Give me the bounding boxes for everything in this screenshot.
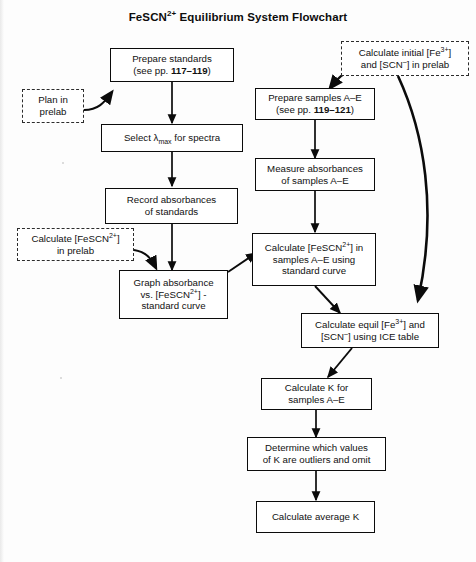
- node-calculate-fescn-prelab-line2: in prelab: [21, 245, 130, 257]
- node-calculate-fescn-samples-line1: Calculate [FeSCN2+] in: [256, 242, 372, 254]
- node-measure-absorbances[interactable]: Measure absorbances of samples A–E: [255, 158, 375, 191]
- node-graph-absorbance-line1: Graph absorbance: [123, 277, 224, 289]
- equil-fe-suffix: ] and: [403, 319, 425, 330]
- node-calculate-initial-prelab-line2: and [SCN–] in prelab: [345, 59, 465, 71]
- edge-equil-to-calculate-k: [328, 348, 352, 377]
- page-title-superscript: 2+: [167, 9, 176, 18]
- initial-fe-prefix: Calculate initial [Fe: [359, 47, 441, 58]
- see-pages-prefix: (see pp.: [276, 104, 314, 115]
- node-calculate-average-k[interactable]: Calculate average K: [256, 501, 375, 533]
- edge-initial-to-calculate-equil: [398, 76, 427, 300]
- graph-fescn-suffix: ] -: [198, 289, 207, 300]
- node-determine-outliers[interactable]: Determine which values of K are outliers…: [247, 437, 386, 471]
- node-graph-absorbance-line3: standard curve: [123, 300, 224, 312]
- node-calculate-equil-line1: Calculate equil [Fe3+] and: [305, 319, 435, 331]
- fescn-suffix: ]: [117, 233, 120, 244]
- see-pages-suffix: ): [351, 104, 354, 115]
- page-title-post: Equilibrium System Flowchart: [176, 11, 347, 23]
- equil-scn-prefix: [SCN: [321, 331, 344, 342]
- edge-fescn-samples-to-equil: [315, 286, 340, 313]
- node-graph-absorbance-line2: vs. [FeSCN2+] -: [123, 289, 224, 301]
- node-plan-in-prelab-line2: prelab: [26, 106, 80, 118]
- initial-scn-prefix: and [SCN: [361, 59, 403, 70]
- scan-speck: [60, 377, 62, 379]
- node-graph-absorbance[interactable]: Graph absorbance vs. [FeSCN2+] - standar…: [119, 270, 228, 319]
- edge-fescn-prelab-to-graph: [134, 250, 156, 268]
- node-calculate-fescn-samples-line2: samples A–E using: [256, 254, 372, 266]
- node-prepare-samples[interactable]: Prepare samples A–E (see pp. 119–121): [255, 88, 375, 120]
- node-prepare-samples-line2: (see pp. 119–121): [259, 104, 371, 116]
- connector-layer: [0, 0, 476, 562]
- node-determine-outliers-line1: Determine which values: [251, 442, 382, 454]
- node-calculate-k-line2: samples A–E: [265, 394, 368, 406]
- node-measure-absorbances-line1: Measure absorbances: [259, 163, 371, 175]
- node-calculate-average-k-line1: Calculate average K: [260, 511, 371, 523]
- fescn-prefix: Calculate [FeSCN: [31, 233, 109, 244]
- fe-charge-superscript: 3+: [441, 46, 449, 53]
- initial-scn-suffix: ] in prelab: [407, 59, 450, 70]
- equil-fe-prefix: Calculate equil [Fe: [315, 319, 395, 330]
- equil-scn-suffix: ] using ICE table: [348, 331, 419, 342]
- node-record-absorbances-line1: Record absorbances: [109, 194, 234, 206]
- fescn-charge-superscript: 2+: [109, 232, 117, 239]
- node-plan-in-prelab-line1: Plan in: [26, 94, 80, 106]
- node-record-absorbances-line2: of standards: [109, 206, 234, 218]
- node-prepare-standards-line1: Prepare standards: [114, 53, 230, 65]
- node-select-lambda-max[interactable]: Select λmax for spectra: [101, 124, 243, 152]
- node-calculate-fescn-prelab-line1: Calculate [FeSCN2+]: [21, 233, 130, 245]
- lambda-suffix: for spectra: [172, 132, 220, 143]
- samples-fescn-prefix: Calculate [FeSCN: [265, 242, 343, 253]
- flowchart-page: FeSCN2+ Equilibrium System Flowchart: [0, 0, 476, 562]
- node-select-lambda-max-line1: Select λmax for spectra: [105, 132, 239, 144]
- node-prepare-standards[interactable]: Prepare standards (see pp. 117–119): [110, 48, 234, 82]
- see-pages-suffix: ): [208, 65, 211, 76]
- node-calculate-equil-line2: [SCN–] using ICE table: [305, 331, 435, 343]
- samples-fescn-suffix: ] in: [350, 242, 363, 253]
- initial-fe-suffix: ]: [449, 47, 452, 58]
- node-calculate-initial-prelab[interactable]: Calculate initial [Fe3+] and [SCN–] in p…: [341, 41, 469, 76]
- node-calculate-k-line1: Calculate K for: [265, 382, 368, 394]
- lambda-subscript: max: [158, 138, 171, 145]
- node-prepare-samples-line1: Prepare samples A–E: [259, 92, 371, 104]
- node-calculate-fescn-prelab[interactable]: Calculate [FeSCN2+] in prelab: [17, 228, 134, 261]
- node-plan-in-prelab[interactable]: Plan in prelab: [22, 89, 84, 123]
- node-calculate-equil[interactable]: Calculate equil [Fe3+] and [SCN–] using …: [301, 313, 439, 348]
- node-calculate-fescn-samples-line3: standard curve: [256, 265, 372, 277]
- scan-speck: [62, 162, 64, 164]
- node-calculate-k[interactable]: Calculate K for samples A–E: [261, 378, 372, 410]
- node-record-absorbances[interactable]: Record absorbances of standards: [105, 188, 238, 224]
- node-measure-absorbances-line2: of samples A–E: [259, 175, 371, 187]
- node-prepare-standards-line2: (see pp. 117–119): [114, 65, 230, 77]
- see-pages-prefix: (see pp.: [133, 65, 171, 76]
- page-range-119-121: 119–121: [314, 104, 351, 115]
- graph-fescn-charge-superscript: 2+: [190, 287, 198, 294]
- page-title-pre: FeSCN: [129, 11, 167, 23]
- page-range-117-119: 117–119: [171, 65, 208, 76]
- page-edge-shadow: [0, 0, 4, 562]
- node-calculate-fescn-samples[interactable]: Calculate [FeSCN2+] in samples A–E using…: [252, 233, 376, 286]
- node-determine-outliers-line2: of K are outliers and omit: [251, 454, 382, 466]
- edge-plan-to-prepare-standards: [84, 92, 112, 110]
- graph-fescn-prefix: vs. [FeSCN: [140, 289, 190, 300]
- page-title: FeSCN2+ Equilibrium System Flowchart: [0, 9, 476, 23]
- lambda-prefix: Select λ: [124, 132, 158, 143]
